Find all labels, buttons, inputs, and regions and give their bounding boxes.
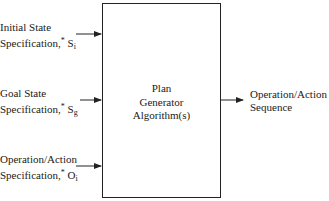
input-label-initial-state: Initial State Specification,* Si [0, 21, 76, 53]
input-label-goal-state: Goal State Specification,* Sg [0, 87, 78, 119]
output-label: Operation/Action Sequence [250, 88, 327, 114]
plan-generator-box: Plan Generator Algorithm(s) [102, 3, 221, 198]
input-label-operation-spec: Operation/Action Specification,* Oi [0, 153, 78, 185]
plan-generator-label: Plan Generator Algorithm(s) [103, 82, 220, 123]
